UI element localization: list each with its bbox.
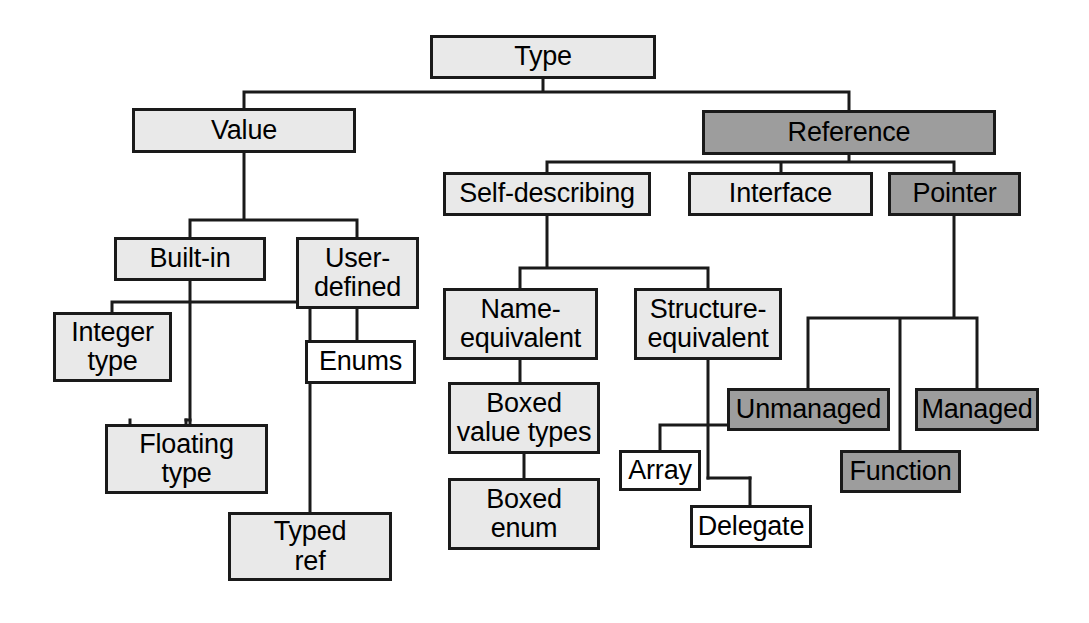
node-unmanaged[interactable]: Unmanaged xyxy=(727,388,890,431)
type-hierarchy-diagram: Type Value Reference Self-describing Int… xyxy=(0,0,1089,623)
node-user-defined[interactable]: User- defined xyxy=(296,237,419,309)
node-value[interactable]: Value xyxy=(132,108,356,153)
node-built-in[interactable]: Built-in xyxy=(114,237,266,281)
node-boxed-value-types[interactable]: Boxed value types xyxy=(448,382,600,454)
node-boxed-enum[interactable]: Boxed enum xyxy=(448,478,600,550)
node-array[interactable]: Array xyxy=(619,450,701,491)
node-pointer[interactable]: Pointer xyxy=(888,172,1021,216)
node-floating-type[interactable]: Floating type xyxy=(105,424,268,494)
node-reference[interactable]: Reference xyxy=(702,110,996,155)
node-function[interactable]: Function xyxy=(840,450,961,493)
node-structure-equivalent[interactable]: Structure- equivalent xyxy=(634,288,782,360)
node-managed[interactable]: Managed xyxy=(915,388,1039,431)
node-integer-type[interactable]: Integer type xyxy=(53,312,172,382)
node-delegate[interactable]: Delegate xyxy=(690,505,812,548)
node-typed-ref[interactable]: Typed ref xyxy=(228,512,392,581)
node-interface[interactable]: Interface xyxy=(688,172,873,216)
node-self-describing[interactable]: Self-describing xyxy=(443,172,651,216)
node-type[interactable]: Type xyxy=(430,35,656,79)
node-name-equivalent[interactable]: Name- equivalent xyxy=(443,288,598,360)
node-enums[interactable]: Enums xyxy=(305,340,416,384)
